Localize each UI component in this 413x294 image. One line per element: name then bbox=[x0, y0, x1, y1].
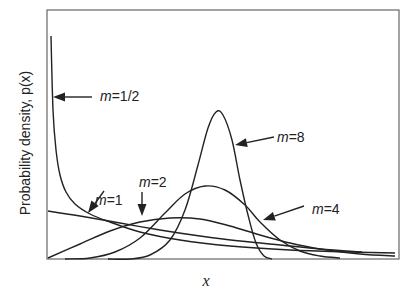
curve-m-2 bbox=[48, 218, 395, 258]
series-label: m=1 bbox=[95, 192, 123, 208]
arrow-line bbox=[247, 137, 274, 143]
y-axis-label: Probability density, p(x) bbox=[17, 71, 33, 215]
annotation-m-1: m=1 bbox=[88, 191, 123, 213]
curve-m-8 bbox=[108, 111, 272, 260]
arrow-line bbox=[274, 206, 304, 216]
plot-frame bbox=[47, 10, 399, 259]
arrow-head-icon bbox=[263, 212, 276, 221]
series-label: m=2 bbox=[139, 174, 167, 190]
annotations: m=1/2m=1m=2m=4m=8 bbox=[53, 88, 340, 220]
x-axis-label: x bbox=[201, 272, 209, 289]
arrow-head-icon bbox=[138, 204, 147, 216]
probability-density-chart: m=1/2m=1m=2m=4m=8 Probability density, p… bbox=[0, 0, 413, 294]
series-label: m=1/2 bbox=[100, 88, 140, 104]
annotation-m-2: m=2 bbox=[138, 174, 167, 216]
series-label: m=8 bbox=[277, 129, 305, 145]
series-label: m=4 bbox=[312, 201, 340, 217]
curve-m-1 bbox=[48, 211, 362, 252]
annotation-m-4: m=4 bbox=[263, 201, 340, 220]
annotation-m-1-2: m=1/2 bbox=[53, 88, 140, 104]
arrow-head-icon bbox=[53, 93, 65, 102]
curves bbox=[48, 36, 395, 259]
arrow-head-icon bbox=[235, 138, 248, 147]
annotation-m-8: m=8 bbox=[235, 129, 305, 147]
